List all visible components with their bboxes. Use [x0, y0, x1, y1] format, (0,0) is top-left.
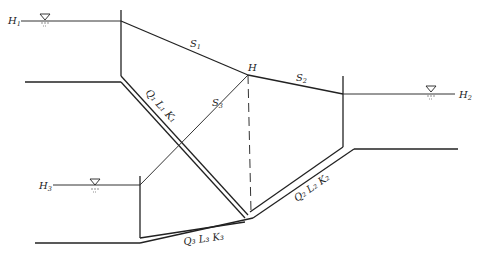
- diagram-canvas: H1 H2 H3: [0, 0, 478, 257]
- head-label-h1: H1: [7, 15, 21, 28]
- reservoir-2: H2: [343, 76, 472, 149]
- three-reservoir-diagram: H1 H2 H3: [0, 0, 478, 257]
- hgl-s2-label: S2: [296, 72, 307, 85]
- hgl-s3-label: S3: [212, 97, 223, 110]
- head-label-h3: H3: [38, 180, 52, 193]
- pipe-2: [250, 147, 354, 218]
- junction-head-dashed-line: [248, 75, 251, 212]
- water-surface-symbol-1: [40, 14, 50, 26]
- pipe-3-label: Q₃ L₃ K₃: [183, 230, 225, 247]
- hgl-s1: [121, 21, 248, 75]
- junction-head-label: H: [247, 62, 257, 73]
- head-label-h2: H2: [458, 89, 472, 102]
- reservoir-3: H3: [35, 176, 140, 243]
- reservoir-1: H1: [7, 10, 121, 82]
- hgl-s1-label: S1: [190, 38, 201, 51]
- water-surface-symbol-2: [426, 86, 436, 99]
